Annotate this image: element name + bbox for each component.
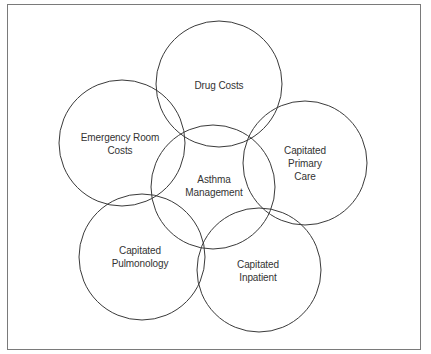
label-capitated-primary-care: Capitated Primary Care <box>284 144 326 183</box>
label-line: Capitated <box>237 258 279 271</box>
label-line: Costs <box>81 144 160 157</box>
label-line: Asthma <box>185 173 242 186</box>
label-asthma-management: Asthma Management <box>185 173 242 199</box>
label-line: Capitated <box>284 144 326 157</box>
label-line: Drug Costs <box>194 79 243 92</box>
label-line: Emergency Room <box>81 131 160 144</box>
label-line: Pulmonology <box>112 257 169 270</box>
label-line: Care <box>284 170 326 183</box>
label-capitated-pulmonology: Capitated Pulmonology <box>112 244 169 270</box>
label-emergency-room-costs: Emergency Room Costs <box>81 131 160 157</box>
label-line: Capitated <box>112 244 169 257</box>
label-capitated-inpatient: Capitated Inpatient <box>237 258 279 284</box>
label-line: Primary <box>284 157 326 170</box>
label-drug-costs: Drug Costs <box>194 79 243 92</box>
label-line: Management <box>185 186 242 199</box>
label-line: Inpatient <box>237 271 279 284</box>
